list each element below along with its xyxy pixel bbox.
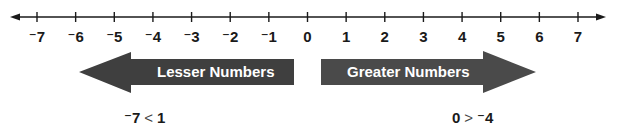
less-than-operator: < (144, 109, 153, 126)
tick-label: 0 (293, 28, 323, 45)
tick-label: 6 (524, 28, 554, 45)
tick-label: ⁻3 (177, 28, 207, 46)
tick-label: 2 (370, 28, 400, 45)
lesser-example: ⁻7<1 (124, 109, 165, 127)
tick-label: 3 (408, 28, 438, 45)
tick-label: ⁻1 (254, 28, 284, 46)
number-line-diagram: ⁻7⁻6⁻5⁻4⁻3⁻2⁻101234567 Lesser Numbers Gr… (0, 0, 617, 132)
tick-label: ⁻5 (99, 28, 129, 46)
tick-label: ⁻7 (22, 28, 52, 46)
greater-example-rhs: ⁻4 (477, 109, 493, 126)
greater-than-operator: > (464, 109, 473, 126)
tick-label: ⁻2 (215, 28, 245, 46)
diagram-graphics (0, 0, 617, 132)
tick-label: 7 (563, 28, 593, 45)
lesser-numbers-label: Lesser Numbers (157, 63, 275, 80)
lesser-example-rhs: 1 (157, 109, 165, 126)
greater-numbers-label: Greater Numbers (347, 63, 470, 80)
tick-label: 1 (331, 28, 361, 45)
greater-example: 0>⁻4 (452, 109, 493, 127)
lesser-example-lhs: ⁻7 (124, 109, 140, 126)
tick-label: 4 (447, 28, 477, 45)
axis-right-arrowhead-icon (596, 14, 606, 21)
tick-label: 5 (486, 28, 516, 45)
greater-example-lhs: 0 (452, 109, 460, 126)
tick-label: ⁻6 (61, 28, 91, 46)
axis-left-arrowhead-icon (10, 14, 20, 21)
tick-label: ⁻4 (138, 28, 168, 46)
